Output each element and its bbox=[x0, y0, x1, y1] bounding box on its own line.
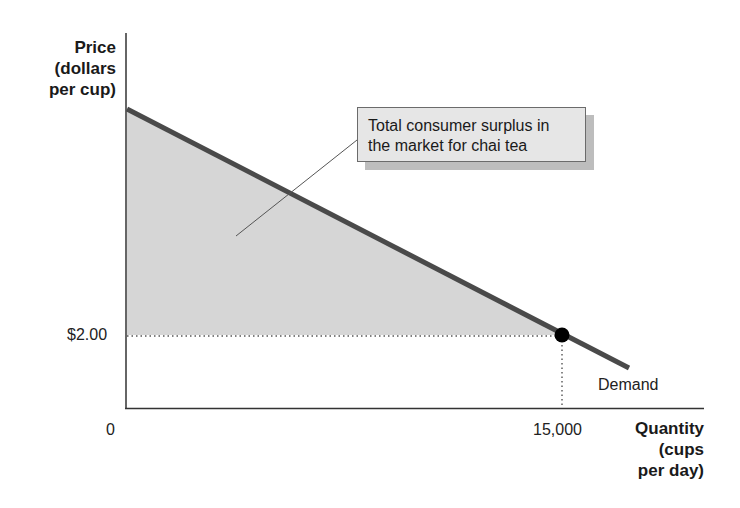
callout-text: Total consumer surplus in the market for… bbox=[368, 117, 549, 154]
x-axis-title: Quantity (cups per day) bbox=[604, 418, 704, 481]
consumer-surplus-callout: Total consumer surplus in the market for… bbox=[357, 107, 586, 162]
y-axis-title-line3: per cup) bbox=[6, 79, 116, 100]
y-axis-title: Price (dollars per cup) bbox=[6, 37, 116, 100]
equilibrium-point bbox=[555, 328, 570, 343]
origin-label: 0 bbox=[106, 421, 115, 439]
x-tick-quantity: 15,000 bbox=[533, 421, 582, 439]
y-axis-title-line2: (dollars bbox=[6, 58, 116, 79]
y-axis-title-line1: Price bbox=[6, 37, 116, 58]
demand-label: Demand bbox=[598, 376, 658, 394]
x-axis-title-line2: (cups bbox=[604, 439, 704, 460]
x-axis-title-line1: Quantity bbox=[604, 418, 704, 439]
x-axis-title-line3: per day) bbox=[604, 460, 704, 481]
y-tick-price: $2.00 bbox=[67, 326, 107, 344]
